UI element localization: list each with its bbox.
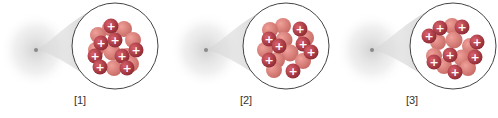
nucleus-dot	[370, 48, 374, 52]
svg-text:+: +	[96, 37, 105, 50]
svg-text:+: +	[424, 30, 433, 43]
nucleus-dot	[204, 48, 208, 52]
svg-text:+: +	[264, 54, 273, 67]
svg-text:+: +	[274, 40, 283, 53]
svg-text:+: +	[295, 23, 304, 36]
svg-text:+: +	[306, 46, 315, 59]
svg-text:+: +	[264, 33, 273, 46]
nucleus-dot	[34, 48, 38, 52]
atom-label-3: [3]	[397, 94, 427, 106]
svg-text:+: +	[457, 21, 466, 34]
atom-label-2: [2]	[231, 94, 261, 106]
atom-panel-1: + + + + + + + + [1]	[0, 0, 166, 118]
svg-text:+: +	[131, 44, 140, 57]
svg-text:+: +	[106, 20, 115, 33]
svg-text:+: +	[472, 36, 481, 49]
atom-panel-2: + + + + + + + [2]	[166, 0, 332, 118]
svg-text:+: +	[450, 66, 459, 79]
atom-panel-3: + + + + + + + + [3]	[332, 0, 498, 118]
svg-text:+: +	[110, 34, 119, 47]
svg-text:+: +	[95, 61, 104, 74]
atom-label-1: [1]	[65, 94, 95, 106]
svg-text:+: +	[429, 56, 438, 69]
svg-text:+: +	[288, 65, 297, 78]
svg-text:+: +	[470, 51, 479, 64]
svg-text:+: +	[445, 49, 454, 62]
svg-text:+: +	[122, 62, 131, 75]
svg-text:+: +	[435, 22, 444, 35]
